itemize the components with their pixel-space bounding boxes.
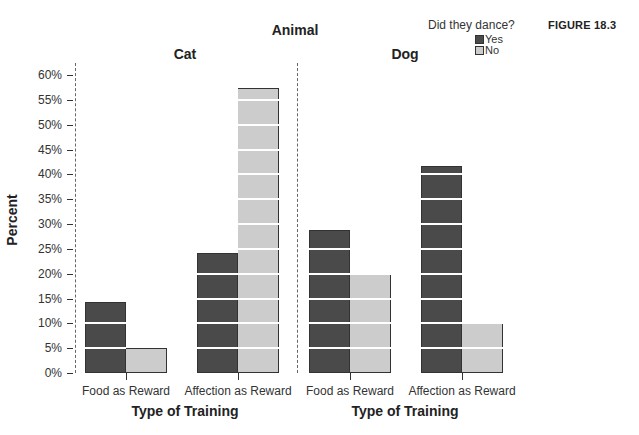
x-tick-mark [462,373,463,380]
panel-title-dog: Dog [330,46,480,62]
y-tick-label: 55% [22,93,62,107]
x-category-label: Food as Reward [285,384,415,398]
bar-gridline [350,273,391,275]
y-tick-label: 30% [22,217,62,231]
y-tick-label: 40% [22,167,62,181]
y-tick-mark [67,125,73,126]
bar-gridline [238,149,279,151]
y-tick-label: 10% [22,316,62,330]
y-tick-mark [67,249,73,250]
y-tick-mark [67,150,73,151]
bar-gridline [238,322,279,324]
x-category-label: Affection as Reward [173,384,303,398]
bar-gridline [421,322,462,324]
bar-gridline [238,273,279,275]
y-tick-label: 50% [22,118,62,132]
bar-gridline [238,347,279,349]
y-tick-mark [67,100,73,101]
bar-cat-food-yes [85,302,126,373]
y-tick-label: 25% [22,242,62,256]
y-tick-label: 15% [22,292,62,306]
x-tick-mark [350,373,351,380]
bar-gridline [309,248,350,250]
y-tick-label: 5% [22,341,62,355]
bar-gridline [238,298,279,300]
y-tick-mark [67,199,73,200]
y-tick-label: 35% [22,192,62,206]
bar-cat-food-no [126,348,167,373]
y-tick-mark [67,348,73,349]
bar-gridline [462,322,503,324]
bar-gridline [421,273,462,275]
y-axis-title: Percent [4,194,20,245]
x-axis-title-cat: Type of Training [85,403,285,419]
legend-label-no: No [485,44,499,56]
y-tick-mark [67,75,73,76]
bar-cat-affection-no [238,88,279,373]
bar-gridline [309,347,350,349]
x-category-label: Food as Reward [61,384,191,398]
bar-gridline [421,347,462,349]
bar-gridline [350,322,391,324]
x-tick-mark [238,373,239,380]
panel-divider [297,63,298,373]
bar-gridline [197,322,238,324]
bar-gridline [197,298,238,300]
bar-gridline [421,223,462,225]
x-axis-title-dog: Type of Training [305,403,505,419]
bar-dog-food-yes [309,230,350,373]
y-tick-mark [67,274,73,275]
bar-gridline [238,124,279,126]
y-tick-label: 45% [22,143,62,157]
bar-gridline [238,223,279,225]
bar-gridline [421,198,462,200]
bar-cat-affection-yes [197,253,238,373]
bar-gridline [462,347,503,349]
bar-gridline [309,298,350,300]
bar-gridline [309,273,350,275]
y-tick-label: 60% [22,68,62,82]
bar-gridline [238,248,279,250]
bar-gridline [238,173,279,175]
y-tick-mark [67,299,73,300]
y-tick-mark [67,174,73,175]
bar-gridline [421,248,462,250]
bar-gridline [197,273,238,275]
x-category-label: Affection as Reward [397,384,527,398]
bar-gridline [350,347,391,349]
x-tick-mark [126,373,127,380]
bar-gridline [421,173,462,175]
bar-gridline [350,298,391,300]
chart-title: Animal [0,22,590,38]
y-tick-mark [67,323,73,324]
bar-gridline [238,198,279,200]
y-tick-label: 20% [22,267,62,281]
bar-gridline [197,347,238,349]
y-axis-line [75,63,76,373]
y-tick-label: 0% [22,366,62,380]
bar-gridline [85,347,126,349]
bar-gridline [309,322,350,324]
bar-gridline [421,298,462,300]
y-tick-mark [67,373,73,374]
bar-gridline [238,99,279,101]
bar-gridline [85,322,126,324]
panel-title-cat: Cat [110,46,260,62]
y-tick-mark [67,224,73,225]
